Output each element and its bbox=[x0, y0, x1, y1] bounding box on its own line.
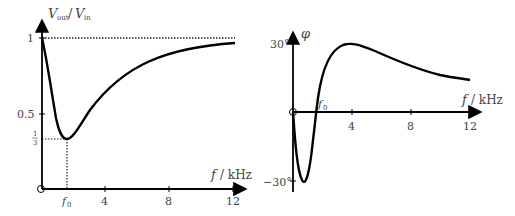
xlabel-f: f bbox=[210, 167, 218, 182]
xtick-label-12: 12 bbox=[463, 120, 477, 133]
xtick-label-8: 8 bbox=[165, 195, 172, 208]
figure: V out / V in 1 0.5 1 3 f / kHz f 0 4 8 1… bbox=[0, 0, 515, 216]
ylabel-vin-sub: in bbox=[84, 14, 91, 22]
magnitude-chart: V out / V in 1 0.5 1 3 f / kHz f 0 4 8 1… bbox=[17, 6, 252, 209]
xtick-label-f0-sub: 0 bbox=[67, 201, 71, 209]
xlabel-unit: / kHz bbox=[220, 168, 252, 182]
ytick-label-05: 0.5 bbox=[17, 108, 35, 121]
ytick-label-third-num: 1 bbox=[33, 130, 37, 138]
ylabel-phi: φ bbox=[301, 26, 311, 41]
xlabel-f: f bbox=[461, 92, 469, 107]
xtick-label-4: 4 bbox=[348, 120, 355, 133]
xtick-label-12: 12 bbox=[226, 195, 240, 208]
phase-chart: φ 30° −30° f 0 f / kHz 4 8 12 bbox=[263, 26, 503, 192]
ylabel-vout-sub: out bbox=[57, 14, 69, 22]
magnitude-curve bbox=[42, 38, 235, 139]
ytick-label-m30: −30° bbox=[263, 176, 292, 189]
ylabel-sep: / bbox=[68, 6, 73, 21]
xtick-label-4: 4 bbox=[101, 195, 108, 208]
ytick-label-third-den: 3 bbox=[33, 139, 37, 147]
f0-label-sub: 0 bbox=[323, 104, 327, 112]
ytick-label-30: 30° bbox=[270, 38, 290, 51]
xlabel-unit: / kHz bbox=[471, 93, 503, 107]
xtick-label-8: 8 bbox=[407, 120, 414, 133]
ytick-label-1: 1 bbox=[27, 32, 34, 45]
